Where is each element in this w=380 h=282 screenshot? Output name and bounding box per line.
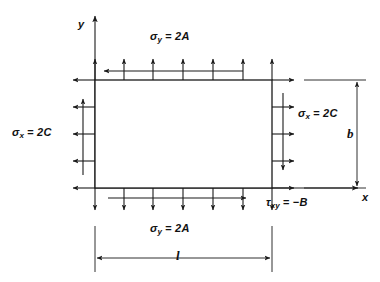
stress-diagram-canvas — [0, 0, 380, 282]
sigma-x-right-subscript: x — [306, 112, 310, 121]
sigma-y-bottom-symbol: σ — [150, 222, 158, 234]
sigma-x-right-symbol: σ — [298, 107, 306, 119]
left-normal-stress-arrows — [73, 80, 95, 188]
height-dimension-line — [304, 80, 366, 188]
stress-element-figure: y x σy = 2A σy = 2A σx = 2C σx = 2C τxy … — [0, 0, 380, 282]
sigma-y-top-label: σy = 2A — [150, 30, 190, 44]
tau-xy-subscript: xy — [271, 201, 280, 210]
length-dimension-label: l — [176, 248, 180, 264]
sigma-x-right-value: 2C — [323, 107, 337, 119]
height-dimension-label: b — [347, 126, 354, 142]
sigma-x-right-label: σx = 2C — [298, 107, 338, 121]
sigma-x-left-label: σx = 2C — [12, 126, 52, 140]
sigma-x-left-symbol: σ — [12, 126, 20, 138]
sigma-y-top-equals: = — [165, 30, 172, 42]
sigma-y-bottom-subscript: y — [158, 227, 162, 236]
bottom-normal-stress-arrows — [95, 188, 272, 210]
sigma-x-left-value: 2C — [37, 126, 51, 138]
y-axis-label: y — [78, 18, 84, 30]
sigma-y-top-symbol: σ — [150, 30, 158, 42]
sigma-y-top-value: 2A — [175, 30, 189, 42]
sigma-y-top-subscript: y — [158, 35, 162, 44]
sigma-y-bottom-value: 2A — [175, 222, 189, 234]
tau-xy-value: −B — [293, 196, 308, 208]
plate-outline — [95, 80, 272, 188]
tau-xy-equals: = — [283, 196, 290, 208]
x-axis-label: x — [362, 191, 368, 203]
sigma-y-bottom-label: σy = 2A — [150, 222, 190, 236]
tau-xy-label: τxy = −B — [266, 196, 308, 210]
sigma-x-left-subscript: x — [20, 131, 24, 140]
top-normal-stress-arrows — [95, 59, 272, 80]
sigma-y-bottom-equals: = — [165, 222, 172, 234]
sigma-x-right-equals: = — [313, 107, 320, 119]
sigma-x-left-equals: = — [27, 126, 34, 138]
